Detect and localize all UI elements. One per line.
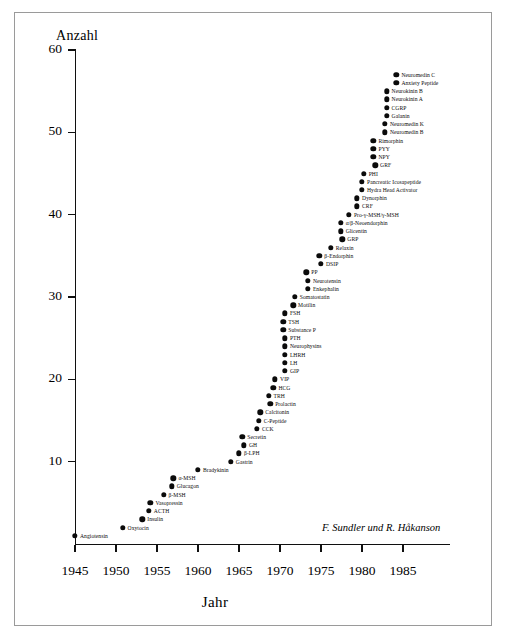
x-tick bbox=[197, 545, 198, 552]
data-point bbox=[304, 270, 309, 275]
data-point-label: Secretin bbox=[247, 434, 266, 440]
data-point-label: Galanin bbox=[392, 113, 410, 119]
data-point-label: TSH bbox=[288, 319, 299, 325]
data-point bbox=[258, 410, 263, 415]
data-point-label: β-Endorphin bbox=[324, 253, 353, 259]
data-point bbox=[282, 368, 287, 373]
data-point-label: Neurokinin A bbox=[392, 96, 423, 102]
x-tick-label: 1960 bbox=[175, 563, 221, 579]
data-point bbox=[256, 418, 261, 423]
data-point bbox=[171, 475, 176, 480]
data-point-label: GRF bbox=[380, 162, 391, 168]
data-point-label: Calcitonin bbox=[265, 409, 289, 415]
data-point-label: Dynorphin bbox=[362, 195, 387, 201]
data-point-label: NPY bbox=[378, 154, 389, 160]
x-tick bbox=[279, 545, 280, 552]
data-point-label: Pro-γ-MSH/γ-MSH bbox=[354, 212, 399, 218]
x-tick bbox=[361, 545, 362, 552]
data-point-label: LH bbox=[290, 360, 298, 366]
data-point-label: β-LPH bbox=[244, 450, 260, 456]
data-point bbox=[282, 335, 287, 340]
x-tick bbox=[74, 545, 75, 552]
data-point-label: Glucagon bbox=[177, 483, 199, 489]
x-axis-title: Jahr bbox=[0, 594, 430, 611]
data-point bbox=[228, 459, 233, 464]
data-point-label: Pancreatic Icosapeptide bbox=[367, 179, 421, 185]
data-point-label: α/β-Neoendorphin bbox=[346, 220, 388, 226]
data-point bbox=[382, 121, 387, 126]
data-point-label: Substance P bbox=[288, 327, 316, 333]
attribution-text: F. Sundler und R. Håkanson bbox=[322, 522, 440, 533]
data-point bbox=[281, 327, 286, 332]
data-point bbox=[266, 393, 271, 398]
data-point-label: Bradykinin bbox=[203, 467, 229, 473]
data-point bbox=[140, 517, 145, 522]
x-tick-label: 1980 bbox=[339, 563, 385, 579]
data-point-label: Relaxin bbox=[336, 245, 354, 251]
y-tick-label: 20 bbox=[28, 370, 62, 386]
y-tick bbox=[68, 132, 76, 133]
data-point-label: C-Peptide bbox=[264, 418, 287, 424]
data-point bbox=[384, 97, 389, 102]
data-point bbox=[282, 311, 287, 316]
data-point-label: Insulin bbox=[147, 516, 163, 522]
data-point bbox=[281, 319, 286, 324]
data-point-label: Oxytocin bbox=[128, 525, 149, 531]
data-point bbox=[394, 72, 399, 77]
y-tick bbox=[68, 49, 76, 50]
data-point bbox=[338, 228, 343, 233]
y-tick-label: 10 bbox=[28, 453, 62, 469]
x-tick bbox=[115, 545, 116, 552]
data-point-label: PP bbox=[311, 269, 317, 275]
data-point bbox=[382, 130, 387, 135]
data-point bbox=[161, 492, 166, 497]
data-point-label: CRF bbox=[362, 203, 373, 209]
data-point-label: GRP bbox=[347, 236, 358, 242]
data-point-label: Neuromedin K bbox=[390, 121, 424, 127]
data-point-label: Somatostatin bbox=[300, 294, 330, 300]
data-point bbox=[372, 163, 377, 168]
y-tick-label: 30 bbox=[28, 288, 62, 304]
data-point-label: FSH bbox=[290, 310, 300, 316]
x-tick-label: 1965 bbox=[216, 563, 262, 579]
y-tick bbox=[68, 379, 76, 380]
data-point-label: ACTH bbox=[154, 508, 169, 514]
data-point-label: Glicentin bbox=[346, 228, 367, 234]
data-point bbox=[305, 286, 310, 291]
data-point-label: CGRP bbox=[392, 105, 407, 111]
data-point bbox=[290, 303, 295, 308]
data-point bbox=[371, 146, 376, 151]
data-point bbox=[384, 113, 389, 118]
data-point bbox=[195, 467, 200, 472]
data-point bbox=[328, 245, 333, 250]
data-point-label: Neuromedin B bbox=[390, 129, 424, 135]
x-tick bbox=[320, 545, 321, 552]
data-point-label: Gastrin bbox=[236, 459, 253, 465]
data-point bbox=[384, 88, 389, 93]
data-point-label: Hydra Head Activator bbox=[367, 187, 417, 193]
y-tick bbox=[68, 296, 76, 297]
data-point-label: DSIP bbox=[326, 261, 338, 267]
x-tick-label: 1970 bbox=[257, 563, 303, 579]
data-point-label: PTH bbox=[290, 335, 301, 341]
data-point bbox=[72, 533, 77, 538]
data-point bbox=[354, 204, 359, 209]
y-axis-title: Anzahl bbox=[56, 28, 98, 44]
data-point bbox=[271, 385, 276, 390]
data-point-label: Angiotensin bbox=[80, 533, 108, 539]
data-point bbox=[371, 154, 376, 159]
x-tick-label: 1950 bbox=[93, 563, 139, 579]
data-point-label: CCK bbox=[262, 426, 274, 432]
data-point-label: HCG bbox=[278, 385, 290, 391]
data-point-label: Motilin bbox=[298, 302, 315, 308]
data-point bbox=[361, 171, 366, 176]
data-point bbox=[240, 434, 245, 439]
data-point bbox=[148, 500, 153, 505]
y-tick bbox=[68, 214, 76, 215]
data-point-label: Anxiety Peptide bbox=[401, 80, 438, 86]
data-point bbox=[241, 442, 246, 447]
data-point bbox=[292, 294, 297, 299]
data-point bbox=[120, 525, 125, 530]
data-point-label: GH bbox=[249, 442, 257, 448]
data-point-label: LHRH bbox=[290, 352, 305, 358]
